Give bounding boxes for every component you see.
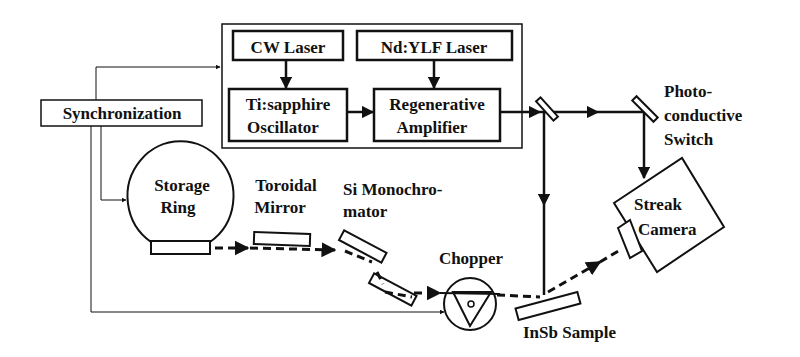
mono-label-line2: mator — [343, 202, 388, 221]
regen-label-line2: Amplifier — [397, 118, 468, 137]
mono-label-line1: Si Monochro- — [343, 180, 443, 199]
beam-splitter — [536, 97, 558, 120]
storage-ring-label-line2: Ring — [161, 198, 196, 217]
ndylf-laser-box: Nd:YLF Laser — [357, 31, 512, 60]
sync-to-ring-line — [101, 126, 126, 200]
cw-laser-label: CW Laser — [251, 38, 326, 57]
toroidal-mirror: Toroidal Mirror — [254, 176, 317, 246]
ti-sapphire-oscillator-box: Ti:sapphire Oscillator — [229, 89, 347, 141]
sync-to-chopper-line — [91, 126, 444, 312]
photoconductive-switch-label: Photo- conductive Switch — [664, 82, 743, 149]
xray-beam-path — [215, 248, 620, 297]
regenerative-amplifier-box: Regenerative Amplifier — [374, 89, 500, 141]
svg-text:Switch: Switch — [664, 130, 714, 149]
setup-diagram: CW Laser Nd:YLF Laser Ti:sapphire Oscill… — [0, 0, 800, 357]
streak-label-line2: Camera — [638, 220, 697, 239]
chopper: Chopper — [439, 249, 504, 330]
storage-ring: Storage Ring — [128, 141, 234, 254]
sync-to-laser-line — [96, 67, 220, 100]
svg-text:conductive: conductive — [664, 106, 743, 125]
synchronization-box: Synchronization — [41, 100, 202, 126]
toroidal-label-line1: Toroidal — [255, 176, 317, 195]
chopper-label: Chopper — [439, 249, 504, 268]
regen-label-line1: Regenerative — [389, 95, 485, 114]
svg-text:Photo-: Photo- — [664, 82, 713, 101]
si-monochromator: Si Monochro- mator — [339, 180, 443, 306]
streak-camera: Streak Camera — [614, 158, 724, 272]
ti-sapphire-label-line1: Ti:sapphire — [246, 95, 331, 114]
insb-sample-label: InSb Sample — [523, 323, 617, 342]
ndylf-laser-label: Nd:YLF Laser — [381, 38, 488, 57]
insb-sample: InSb Sample — [516, 292, 617, 342]
synchronization-label: Synchronization — [63, 104, 182, 123]
toroidal-label-line2: Mirror — [254, 198, 306, 217]
streak-label-line1: Streak — [634, 195, 682, 214]
storage-ring-label-line1: Storage — [154, 176, 210, 195]
ti-sapphire-label-line2: Oscillator — [247, 118, 319, 137]
cw-laser-box: CW Laser — [233, 31, 343, 60]
